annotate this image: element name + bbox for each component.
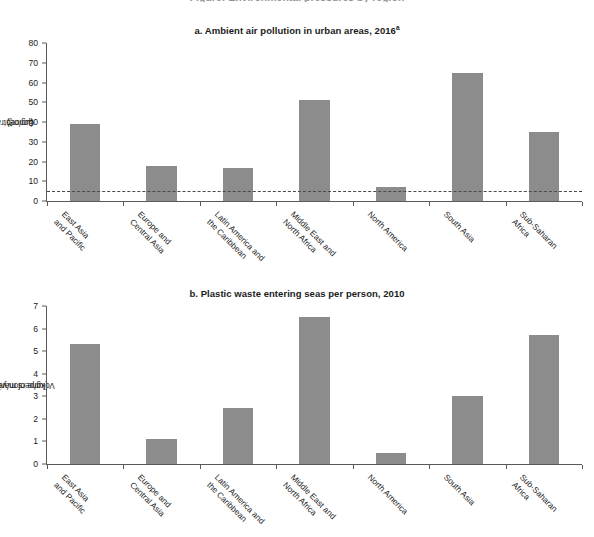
bar bbox=[299, 317, 330, 464]
bar bbox=[529, 335, 560, 464]
x-tick-label: Middle East andNorth Africa bbox=[281, 472, 338, 529]
y-tick-label: 40 bbox=[28, 117, 38, 127]
bar bbox=[70, 124, 101, 201]
x-tick-mark bbox=[200, 465, 201, 469]
cut-off-header: Figure: Environmental pressures by regio… bbox=[0, 0, 594, 2]
y-tick-label: 60 bbox=[28, 78, 38, 88]
x-tick-label-line: North America bbox=[366, 209, 410, 253]
chart-b-y-tick-labels: 01234567 bbox=[16, 306, 42, 464]
chart-a-title: a. Ambient air pollution in urban areas,… bbox=[0, 22, 594, 37]
x-tick-mark bbox=[47, 202, 48, 206]
y-tick-label: 10 bbox=[28, 176, 38, 186]
x-tick-mark bbox=[506, 465, 507, 469]
chart-b-plot: Volume of marine-plastic waste (kg/perso… bbox=[0, 306, 594, 486]
x-tick-mark bbox=[582, 202, 583, 206]
x-tick-label-line: South Asia bbox=[442, 472, 477, 507]
x-tick-mark bbox=[429, 465, 430, 469]
x-tick-mark bbox=[429, 202, 430, 206]
x-tick-mark bbox=[123, 202, 124, 206]
bar bbox=[146, 166, 177, 202]
y-tick-label: 3 bbox=[33, 391, 38, 401]
y-tick-label: 7 bbox=[33, 301, 38, 311]
bar bbox=[376, 453, 407, 464]
x-tick-mark bbox=[582, 465, 583, 469]
x-tick-mark bbox=[353, 202, 354, 206]
x-tick-label: Europe andCentral Asia bbox=[128, 209, 174, 255]
bar bbox=[146, 439, 177, 464]
y-tick-label: 50 bbox=[28, 97, 38, 107]
y-tick-label: 80 bbox=[28, 38, 38, 48]
bar bbox=[452, 73, 483, 201]
y-tick-label: 20 bbox=[28, 157, 38, 167]
chart-panel-b: b. Plastic waste entering seas per perso… bbox=[0, 288, 594, 537]
x-tick-label: Middle East andNorth Africa bbox=[281, 209, 338, 266]
x-tick-mark bbox=[276, 202, 277, 206]
guideline-dashed bbox=[47, 191, 582, 192]
bar bbox=[223, 168, 254, 202]
y-tick-label: 70 bbox=[28, 58, 38, 68]
x-tick-label: North America bbox=[365, 209, 410, 254]
x-tick-label: Europe andCentral Asia bbox=[128, 472, 174, 518]
chart-b-y-axis-title: Volume of marine-plastic waste (kg/perso… bbox=[0, 306, 16, 464]
chart-a-title-text: a. Ambient air pollution in urban areas,… bbox=[194, 25, 395, 36]
x-tick-label-line: North America bbox=[366, 472, 410, 516]
y-tick-label: 0 bbox=[33, 196, 38, 206]
y-tick-label: 30 bbox=[28, 137, 38, 147]
y-tick-label: 6 bbox=[33, 324, 38, 334]
chart-b-title-text: b. Plastic waste entering seas per perso… bbox=[189, 288, 404, 299]
x-tick-label: Sub-SaharanAfrica bbox=[511, 209, 560, 258]
x-tick-mark bbox=[200, 202, 201, 206]
x-tick-mark bbox=[353, 465, 354, 469]
chart-b-title: b. Plastic waste entering seas per perso… bbox=[0, 288, 594, 300]
chart-a-y-axis-title: Concentration of PM2.5 (µg/m³) bbox=[0, 43, 16, 201]
chart-a-x-axis-line bbox=[46, 201, 582, 202]
chart-a-plot: Concentration of PM2.5 (µg/m³) 010203040… bbox=[0, 43, 594, 223]
chart-b-plot-area bbox=[47, 306, 582, 464]
x-tick-label: Sub-SaharanAfrica bbox=[511, 472, 560, 521]
y-tick-label: 0 bbox=[33, 459, 38, 469]
chart-a-title-footnote-marker: a bbox=[396, 24, 400, 31]
x-tick-label: Latin America andthe Caribbean bbox=[205, 209, 267, 271]
bar bbox=[70, 344, 101, 464]
bar bbox=[299, 100, 330, 201]
y-tick-label: 2 bbox=[33, 414, 38, 424]
x-tick-label: East Asiaand Pacific bbox=[52, 472, 96, 516]
chart-b-x-axis-line bbox=[46, 464, 582, 465]
bar bbox=[223, 408, 254, 464]
x-tick-mark bbox=[506, 202, 507, 206]
y-tick-label: 1 bbox=[33, 436, 38, 446]
chart-a-x-tick-labels: East Asiaand PacificEurope andCentral As… bbox=[47, 209, 582, 299]
x-tick-mark bbox=[276, 465, 277, 469]
x-tick-mark bbox=[123, 465, 124, 469]
y-tick-label: 5 bbox=[33, 346, 38, 356]
x-tick-label: South Asia bbox=[442, 472, 477, 507]
chart-b-x-tick-labels: East Asiaand PacificEurope andCentral As… bbox=[47, 472, 582, 537]
x-tick-mark bbox=[47, 465, 48, 469]
x-tick-label: South Asia bbox=[442, 209, 477, 244]
chart-a-plot-area bbox=[47, 43, 582, 201]
x-tick-label: East Asiaand Pacific bbox=[52, 209, 96, 253]
x-tick-label: Latin America andthe Caribbean bbox=[205, 472, 267, 534]
chart-a-y-tick-labels: 01020304050607080 bbox=[16, 43, 42, 201]
y-tick-label: 4 bbox=[33, 369, 38, 379]
bar bbox=[452, 396, 483, 464]
x-tick-label-line: South Asia bbox=[442, 209, 477, 244]
bar bbox=[376, 187, 407, 201]
chart-panel-a: a. Ambient air pollution in urban areas,… bbox=[0, 22, 594, 290]
x-tick-label: North America bbox=[365, 472, 410, 517]
